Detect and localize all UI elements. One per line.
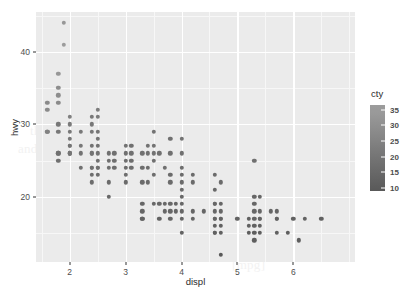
gridline-major-horizontal: [36, 52, 355, 53]
data-point: [218, 180, 222, 184]
gridline-major-vertical: [293, 12, 294, 262]
data-point: [179, 151, 183, 155]
data-point: [107, 151, 111, 155]
data-point: [140, 166, 144, 170]
data-point: [258, 209, 262, 213]
data-point: [90, 151, 94, 155]
data-point: [179, 187, 183, 191]
data-point: [274, 216, 278, 220]
x-axis-tick-mark: [69, 262, 70, 265]
legend-tick-mark: [381, 187, 385, 188]
data-point: [140, 202, 144, 206]
legend-tick-label: 10: [390, 183, 399, 192]
data-point: [123, 166, 127, 170]
data-point: [168, 151, 172, 155]
legend-tick-label: 15: [390, 168, 399, 177]
data-point: [179, 180, 183, 184]
gridline-minor-horizontal: [36, 88, 355, 89]
data-point: [151, 144, 155, 148]
data-point: [151, 173, 155, 177]
data-point: [179, 137, 183, 141]
data-point: [140, 209, 144, 213]
data-point: [146, 180, 150, 184]
data-point: [45, 129, 49, 133]
data-point: [95, 166, 99, 170]
data-point: [218, 216, 222, 220]
data-point: [56, 71, 60, 75]
y-axis-tick-mark: [33, 196, 36, 197]
data-point: [90, 122, 94, 126]
legend-tick-mark: [381, 156, 385, 157]
legend-tick-label: 25: [390, 136, 399, 145]
data-point: [246, 231, 250, 235]
data-point: [56, 158, 60, 162]
data-point: [107, 166, 111, 170]
data-point: [56, 122, 60, 126]
data-point: [112, 151, 116, 155]
data-point: [213, 209, 217, 213]
data-point: [163, 166, 167, 170]
gridline-minor-vertical: [321, 12, 322, 262]
data-point: [213, 173, 217, 177]
data-point: [252, 202, 256, 206]
x-axis-tick-mark: [293, 262, 294, 265]
data-point: [218, 224, 222, 228]
data-point: [140, 216, 144, 220]
data-point: [79, 166, 83, 170]
legend-tick-mark: [381, 140, 385, 141]
data-point: [179, 195, 183, 199]
data-point: [79, 151, 83, 155]
data-point: [157, 216, 161, 220]
y-axis-tick-mark: [33, 124, 36, 125]
data-point: [129, 166, 133, 170]
data-point: [107, 195, 111, 199]
gridline-minor-vertical: [42, 12, 43, 262]
gridline-minor-horizontal: [36, 233, 355, 234]
gridline-major-vertical: [237, 12, 238, 262]
data-point: [95, 129, 99, 133]
gridline-minor-vertical: [349, 12, 350, 262]
data-point: [112, 166, 116, 170]
data-point: [140, 151, 144, 155]
data-point: [95, 108, 99, 112]
data-point: [252, 209, 256, 213]
data-point: [258, 216, 262, 220]
data-point: [95, 144, 99, 148]
gridline-minor-horizontal: [36, 161, 355, 162]
data-point: [252, 224, 256, 228]
data-point: [157, 151, 161, 155]
data-point: [151, 158, 155, 162]
data-point: [252, 158, 256, 162]
data-point: [213, 216, 217, 220]
data-point: [123, 173, 127, 177]
data-point: [213, 202, 217, 206]
data-point: [157, 202, 161, 206]
data-point: [95, 158, 99, 162]
legend-tick-label: 30: [390, 121, 399, 130]
data-point: [95, 173, 99, 177]
data-point: [319, 216, 323, 220]
data-point: [246, 224, 250, 228]
data-point: [151, 151, 155, 155]
data-point: [146, 166, 150, 170]
data-point: [179, 231, 183, 235]
data-point: [112, 158, 116, 162]
gridline-minor-horizontal: [36, 16, 355, 17]
data-point: [151, 202, 155, 206]
data-point: [168, 180, 172, 184]
data-point: [252, 238, 256, 242]
data-point: [274, 209, 278, 213]
data-point: [252, 231, 256, 235]
x-axis-title: displ: [36, 276, 355, 287]
data-point: [258, 195, 262, 199]
data-point: [269, 209, 273, 213]
data-point: [213, 224, 217, 228]
data-point: [235, 216, 239, 220]
data-point: [67, 144, 71, 148]
legend-tick-label: 20: [390, 152, 399, 161]
data-point: [286, 231, 290, 235]
data-point: [56, 129, 60, 133]
data-point: [163, 202, 167, 206]
data-point: [90, 173, 94, 177]
data-point: [274, 231, 278, 235]
